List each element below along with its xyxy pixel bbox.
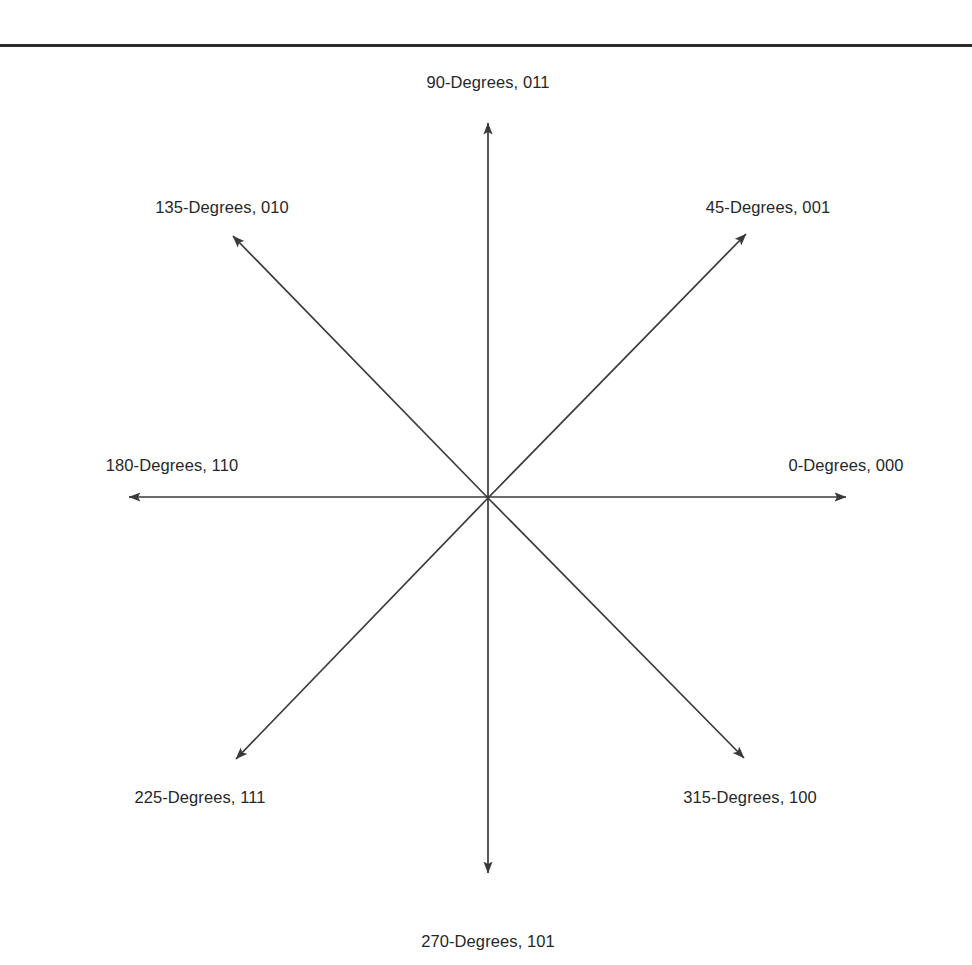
ray-label-001: 45-Degrees, 001 [706, 199, 830, 216]
ray-line-010 [233, 236, 488, 498]
ray-label-000: 0-Degrees, 000 [788, 457, 903, 474]
ray-line-100 [488, 498, 744, 758]
ray-label-110: 180-Degrees, 110 [106, 457, 238, 474]
ray-label-101: 270-Degrees, 101 [421, 933, 555, 950]
ray-line-111 [236, 498, 488, 759]
ray-label-010: 135-Degrees, 010 [155, 199, 289, 216]
ray-label-111: 225-Degrees, 111 [134, 789, 265, 806]
ray-label-100: 315-Degrees, 100 [683, 789, 817, 806]
ray-label-011: 90-Degrees, 011 [426, 74, 549, 91]
figure-page: 90-Degrees, 011 135-Degrees, 010 45-Degr… [0, 0, 972, 965]
radial-vector-diagram [0, 0, 972, 965]
ray-line-001 [488, 234, 746, 498]
